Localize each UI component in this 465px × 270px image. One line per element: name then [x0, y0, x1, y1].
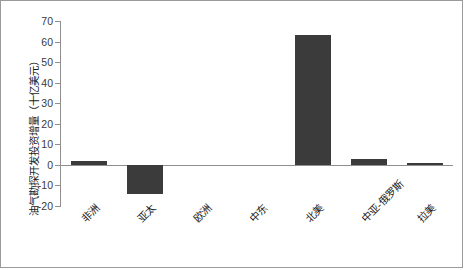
y-axis-tick-label: 0 — [7, 160, 53, 170]
y-axis-tick-label: 70 — [7, 16, 53, 26]
bar — [71, 161, 107, 165]
y-axis-tick-label: 40 — [7, 78, 53, 88]
bar — [407, 163, 443, 165]
y-axis-tick-label: 50 — [7, 57, 53, 67]
y-axis-tick-label: -10 — [7, 180, 53, 190]
bar — [295, 35, 331, 165]
y-axis-tick — [55, 206, 61, 207]
bar — [127, 165, 163, 194]
y-axis-tick-label: -20 — [7, 201, 53, 211]
y-axis-tick-label: 20 — [7, 119, 53, 129]
y-axis-tick-label: 60 — [7, 37, 53, 47]
chart-frame: 油气勘探开发投资增量（十亿美元） 706050403020100-10-20 非… — [0, 0, 463, 268]
y-axis-tick-label: 10 — [7, 139, 53, 149]
y-axis-tick-label: 30 — [7, 98, 53, 108]
bar — [351, 159, 387, 165]
plot-area — [61, 21, 453, 206]
